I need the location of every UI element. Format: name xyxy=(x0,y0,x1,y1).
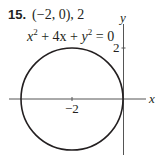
circle-graph: x y −2 2 xyxy=(0,0,166,160)
y-tick-label: 2 xyxy=(113,40,120,55)
x-axis-label: x xyxy=(148,91,155,106)
x-tick-label: −2 xyxy=(65,101,79,116)
y-axis-label: y xyxy=(118,10,126,25)
